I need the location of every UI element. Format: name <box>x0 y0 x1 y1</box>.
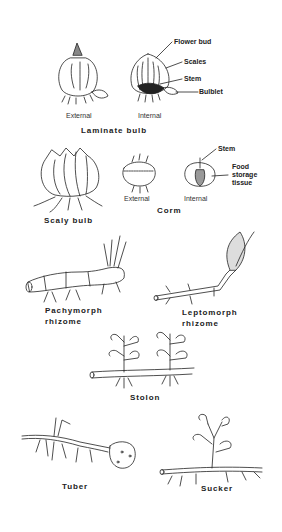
laminate-bulb-internal-label: Internal <box>138 112 161 119</box>
laminate-bulb-internal-illustration <box>131 42 198 102</box>
corm-external-label: External <box>124 195 150 202</box>
sucker-title: Sucker <box>201 484 233 493</box>
pachymorph-rhizome-title-line2: rhizome <box>45 316 102 327</box>
leptomorph-rhizome-title-line1: Leptomorph <box>182 307 238 318</box>
callout-bulblet: Bulblet <box>199 88 223 96</box>
corm-title: Corm <box>157 206 182 215</box>
scaly-bulb-title: Scaly bulb <box>44 216 93 225</box>
diagram-artwork <box>0 0 282 532</box>
sucker-illustration <box>160 414 262 486</box>
pachymorph-rhizome-title-line1: Pachymorph <box>45 305 102 316</box>
leptomorph-rhizome-title-line2: rhizome <box>182 318 238 329</box>
callout-stem: Stem <box>184 75 201 83</box>
callout-tissue: tissue <box>232 179 252 187</box>
scaly-bulb-illustration <box>34 148 102 212</box>
pachymorph-rhizome-illustration <box>26 236 126 302</box>
tuber-title: Tuber <box>62 482 88 491</box>
callout-storage: storage <box>232 171 257 179</box>
callout-food: Food <box>232 163 249 171</box>
callout-scales: Scales <box>184 58 206 66</box>
leptomorph-rhizome-illustration <box>154 232 254 304</box>
laminate-bulb-external-label: External <box>66 112 92 119</box>
stolon-title: Stolon <box>130 393 160 402</box>
callout-corm-stem: Stem <box>218 145 235 153</box>
leptomorph-rhizome-title: Leptomorph rhizome <box>182 307 238 329</box>
laminate-bulb-title: Laminate bulb <box>81 126 147 135</box>
laminate-bulb-external-illustration <box>59 43 108 104</box>
corm-internal-illustration <box>185 149 228 186</box>
corm-internal-label: Internal <box>184 195 207 202</box>
stolon-illustration <box>90 332 194 388</box>
corm-external-illustration <box>123 154 155 193</box>
callout-flower-bud: Flower bud <box>174 38 211 46</box>
pachymorph-rhizome-title: Pachymorph rhizome <box>45 305 102 327</box>
tuber-illustration <box>22 418 135 468</box>
